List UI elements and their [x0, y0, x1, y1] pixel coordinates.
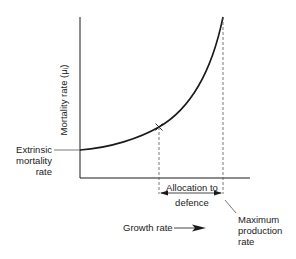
extrinsic-line-2: mortality — [12, 155, 52, 166]
allocation-label: Allocation to defence — [160, 182, 224, 208]
max-production-line-1: Maximum — [238, 214, 282, 225]
extrinsic-line-1: Extrinsic — [12, 144, 52, 155]
max-production-label: Maximum production rate — [238, 214, 282, 247]
extrinsic-mortality-label: Extrinsic mortality rate — [12, 144, 52, 177]
y-axis-label: Mortality rate (μᵢ) — [58, 65, 69, 136]
max-production-line-3: rate — [238, 236, 282, 247]
max-production-line-2: production — [238, 225, 282, 236]
mortality-curve — [80, 17, 223, 150]
allocation-line-2: defence — [160, 197, 224, 208]
x-axis-label: Growth rate — [123, 222, 173, 233]
extrinsic-line-3: rate — [12, 166, 52, 177]
allocation-line-1: Allocation to — [160, 182, 224, 193]
max-production-leader-line — [225, 200, 236, 213]
